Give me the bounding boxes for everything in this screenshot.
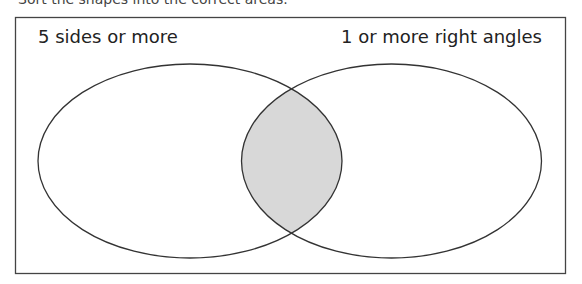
set-left-label: 5 sides or more	[38, 26, 178, 47]
intersection-region[interactable]	[242, 64, 542, 258]
set-right-label: 1 or more right angles	[341, 26, 542, 47]
